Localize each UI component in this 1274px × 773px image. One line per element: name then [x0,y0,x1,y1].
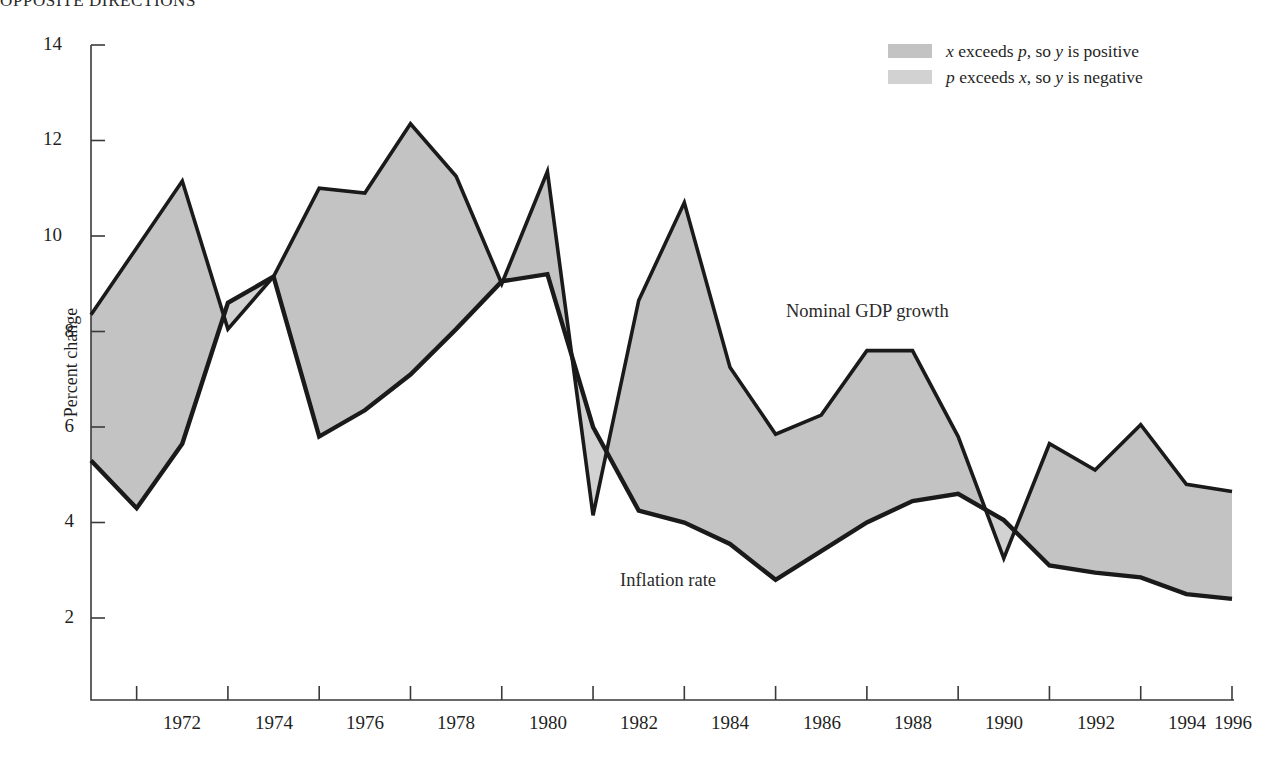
x-tick-1972: 1972 [147,712,217,734]
x-tick-1984: 1984 [695,712,765,734]
band-segment-positive-6 [607,203,986,580]
y-tick-12: 12 [22,128,62,150]
chart-plot-svg [0,0,1274,773]
legend-item-negative: p exceeds x, so y is negative [888,64,1218,90]
band-segment-positive-0 [91,181,224,508]
x-tick-1992: 1992 [1061,712,1131,734]
y-tick-14: 14 [22,33,62,55]
chart-figure: OPPOSITE DIRECTIONS Percent change 2 4 6… [0,0,1274,773]
y-tick-6: 6 [34,415,74,437]
legend-label-negative: p exceeds x, so y is negative [946,67,1143,88]
x-tick-1990: 1990 [969,712,1039,734]
legend-label-positive: x exceeds p, so y is positive [946,41,1139,62]
x-tick-1980: 1980 [513,712,583,734]
x-tick-1974: 1974 [239,712,309,734]
legend-swatch-positive [888,44,932,58]
series-label-nominal-gdp-growth: Nominal GDP growth [786,301,949,322]
x-tick-1996: 1996 [1198,712,1268,734]
y-tick-4: 4 [34,510,74,532]
x-tick-1986: 1986 [787,712,857,734]
series-label-inflation-rate: Inflation rate [620,570,716,591]
y-tick-10: 10 [22,224,62,246]
y-tick-8: 8 [34,320,74,342]
y-tick-2: 2 [34,606,74,628]
chart-legend: x exceeds p, so y is positive p exceeds … [888,38,1218,90]
x-tick-1976: 1976 [330,712,400,734]
legend-item-positive: x exceeds p, so y is positive [888,38,1218,64]
x-tick-1988: 1988 [878,712,948,734]
x-tick-1982: 1982 [604,712,674,734]
legend-swatch-negative [888,70,932,84]
x-tick-1978: 1978 [421,712,491,734]
